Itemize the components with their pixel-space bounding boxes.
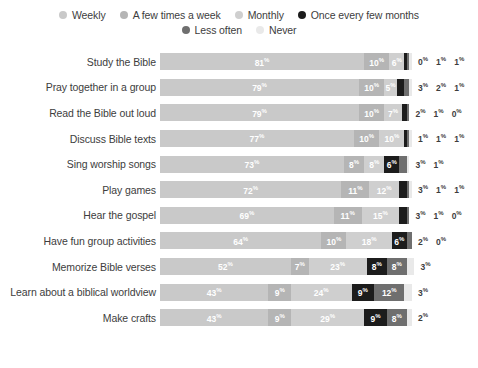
bar-segment[interactable] — [407, 232, 412, 249]
outside-value-labels: 3%1%0% — [415, 207, 461, 224]
legend-item-never[interactable]: Never — [256, 24, 297, 36]
segment-value-label: 1% — [434, 108, 444, 119]
bar-segment[interactable] — [399, 207, 407, 224]
bar-segment[interactable]: 10% — [321, 232, 346, 249]
segment-value-label: 18% — [362, 236, 377, 246]
bar-segment[interactable]: 8% — [364, 156, 384, 173]
percent-sign: % — [459, 133, 464, 139]
bar-segment[interactable] — [397, 79, 405, 96]
bar-segment[interactable]: 5% — [384, 79, 397, 96]
bar-segment[interactable] — [409, 130, 412, 147]
bar-segment[interactable]: 7% — [291, 258, 309, 275]
bar-segment[interactable] — [407, 309, 412, 326]
bar-segment[interactable]: 6% — [392, 232, 407, 249]
bar-segment[interactable] — [409, 53, 412, 70]
row-label: Make crafts — [0, 312, 156, 324]
segment-value-label: 10% — [326, 236, 341, 246]
bar-segment[interactable]: 12% — [374, 284, 404, 301]
bar-segment[interactable] — [404, 284, 412, 301]
legend-row: WeeklyA few times a weekMonthlyOnce ever… — [59, 9, 419, 21]
segment-value-label: 10% — [359, 133, 374, 143]
bar-segment[interactable]: 11% — [334, 207, 362, 224]
segment-value-label: 3% — [418, 82, 428, 93]
segment-value-label: 72% — [243, 185, 258, 195]
bar-segment[interactable]: 9% — [352, 284, 375, 301]
chart-row: Read the Bible out loud79%10%7%2%1%0% — [0, 100, 478, 126]
segment-value-label: 29% — [320, 313, 335, 323]
bar-segment[interactable]: 43% — [160, 284, 268, 301]
legend-item-monthly[interactable]: Monthly — [235, 9, 284, 21]
bar-segment[interactable]: 8% — [367, 258, 387, 275]
bar-segment[interactable]: 77% — [160, 130, 354, 147]
segment-value-label: 7% — [295, 261, 305, 271]
bar-segment[interactable]: 8% — [387, 258, 407, 275]
bar-segment[interactable]: 7% — [384, 104, 402, 121]
segment-value-label: 2% — [418, 312, 428, 323]
bar-segment[interactable]: 9% — [268, 309, 291, 326]
bar-segment[interactable] — [409, 79, 412, 96]
bar-segment[interactable]: 6% — [389, 53, 404, 70]
outside-value-labels: 3%1% — [415, 156, 443, 173]
legend-item-few_times_week[interactable]: A few times a week — [120, 9, 221, 21]
bar-segment[interactable]: 24% — [291, 284, 351, 301]
bar-segment[interactable] — [399, 156, 407, 173]
bar-segment[interactable]: 79% — [160, 79, 359, 96]
percent-sign: % — [340, 261, 345, 267]
bar-segment[interactable]: 64% — [160, 232, 321, 249]
legend-item-once_every_few_months[interactable]: Once every few months — [298, 9, 419, 21]
bar-segment[interactable] — [407, 258, 415, 275]
segment-value-label: 0% — [418, 56, 428, 67]
segment-value-label: 12% — [382, 287, 397, 297]
bar-area: 64%10%18%6%2%0% — [160, 232, 478, 249]
bar-segment[interactable]: 69% — [160, 207, 334, 224]
bar-segment[interactable]: 10% — [379, 130, 404, 147]
segment-value-label: 11% — [348, 185, 362, 195]
bar-segment[interactable]: 18% — [346, 232, 391, 249]
bar-segment[interactable]: 43% — [160, 309, 268, 326]
bar-segment[interactable]: 15% — [362, 207, 400, 224]
bar-segment[interactable] — [407, 207, 410, 224]
bar-segment[interactable]: 79% — [160, 104, 359, 121]
bar-segment[interactable] — [399, 181, 407, 198]
bar-segment[interactable]: 9% — [268, 284, 291, 301]
bar-segment[interactable]: 8% — [344, 156, 364, 173]
bar-segment[interactable]: 73% — [160, 156, 344, 173]
percent-sign: % — [423, 287, 428, 293]
outside-value-labels: 3% — [418, 284, 428, 301]
percent-sign: % — [264, 57, 269, 63]
bar-segment[interactable]: 10% — [359, 104, 384, 121]
stacked-bar: 77%10%10% — [160, 130, 412, 147]
bar-segment[interactable]: 81% — [160, 53, 364, 70]
bar-segment[interactable]: 9% — [364, 309, 387, 326]
bar-segment[interactable] — [409, 181, 412, 198]
bar-segment[interactable] — [407, 104, 410, 121]
segment-value-label: 1% — [454, 56, 464, 67]
legend-row: Less oftenNever — [182, 24, 297, 36]
percent-sign: % — [441, 133, 446, 139]
percent-sign: % — [243, 236, 248, 242]
outside-value-labels: 2%0% — [418, 232, 446, 249]
bar-segment[interactable]: 29% — [291, 309, 364, 326]
percent-sign: % — [354, 159, 359, 165]
bar-segment[interactable]: 10% — [354, 130, 379, 147]
row-label: Memorize Bible verses — [0, 261, 156, 273]
bar-segment[interactable]: 8% — [387, 309, 407, 326]
bar-segment[interactable]: 11% — [341, 181, 369, 198]
segment-value-label: 11% — [341, 210, 355, 220]
bar-segment[interactable]: 72% — [160, 181, 341, 198]
bar-segment[interactable] — [407, 156, 410, 173]
bar-segment[interactable]: 6% — [384, 156, 399, 173]
row-label: Read the Bible out loud — [0, 107, 156, 119]
bar-segment[interactable]: 10% — [359, 79, 384, 96]
bar-segment[interactable]: 52% — [160, 258, 291, 275]
percent-sign: % — [323, 287, 328, 293]
bar-segment[interactable]: 12% — [369, 181, 399, 198]
bar-segment[interactable]: 23% — [309, 258, 367, 275]
percent-sign: % — [441, 236, 446, 242]
legend-item-weekly[interactable]: Weekly — [59, 9, 106, 21]
row-label: Sing worship songs — [0, 158, 156, 170]
bar-segment[interactable]: 10% — [364, 53, 389, 70]
outside-value-labels: 1%1%1% — [418, 130, 464, 147]
segment-value-label: 6% — [392, 57, 402, 67]
legend-item-less_often[interactable]: Less often — [182, 24, 242, 36]
